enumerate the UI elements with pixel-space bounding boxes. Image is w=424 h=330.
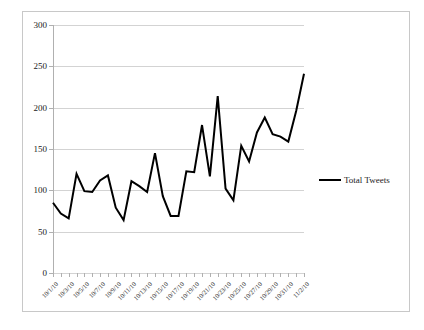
x-tick <box>77 273 78 277</box>
x-tick <box>179 273 180 277</box>
x-tick <box>124 273 125 277</box>
x-tick <box>233 273 234 277</box>
legend-label-total-tweets: Total Tweets <box>344 175 390 185</box>
plot-area: 050100150200250300 10/1/1010/3/1010/5/10… <box>53 25 304 273</box>
x-tick <box>194 273 195 277</box>
x-tick <box>273 273 274 277</box>
x-tick <box>296 273 297 277</box>
x-tick <box>186 273 187 277</box>
y-axis-label-0: 0 <box>43 269 48 278</box>
x-tick <box>304 273 305 277</box>
x-axis-label: 11/2/10 <box>292 281 310 299</box>
y-axis-label-50: 50 <box>38 227 47 236</box>
x-tick <box>69 273 70 277</box>
legend-line-marker <box>319 179 341 181</box>
x-tick <box>92 273 93 277</box>
x-tick <box>53 273 54 277</box>
y-axis-label-300: 300 <box>34 21 48 30</box>
y-axis-label-250: 250 <box>34 62 48 71</box>
y-axis-label-100: 100 <box>34 186 48 195</box>
x-tick <box>116 273 117 277</box>
x-tick <box>288 273 289 277</box>
x-tick <box>257 273 258 277</box>
x-tick <box>84 273 85 277</box>
x-tick <box>147 273 148 277</box>
x-tick <box>218 273 219 277</box>
x-tick <box>241 273 242 277</box>
y-axis-label-150: 150 <box>34 145 48 154</box>
x-tick <box>249 273 250 277</box>
x-tick <box>108 273 109 277</box>
x-tick <box>155 273 156 277</box>
x-axis-label: 10/3/10 <box>57 281 76 300</box>
x-tick <box>210 273 211 277</box>
x-tick <box>202 273 203 277</box>
x-tick <box>226 273 227 277</box>
chart-legend: Total Tweets <box>319 175 390 185</box>
y-axis-label-200: 200 <box>34 103 48 112</box>
x-axis-label: 10/1/10 <box>41 281 60 300</box>
x-tick <box>265 273 266 277</box>
x-tick <box>131 273 132 277</box>
x-axis-label: 10/5/10 <box>72 281 91 300</box>
x-axis-label: 10/7/10 <box>88 281 107 300</box>
x-tick <box>139 273 140 277</box>
series-polyline <box>53 74 304 220</box>
x-tick <box>61 273 62 277</box>
x-tick <box>163 273 164 277</box>
chart-frame: 050100150200250300 10/1/1010/3/1010/5/10… <box>22 11 410 312</box>
x-tick <box>100 273 101 277</box>
x-tick <box>171 273 172 277</box>
series-total-tweets <box>53 25 304 273</box>
x-tick <box>280 273 281 277</box>
